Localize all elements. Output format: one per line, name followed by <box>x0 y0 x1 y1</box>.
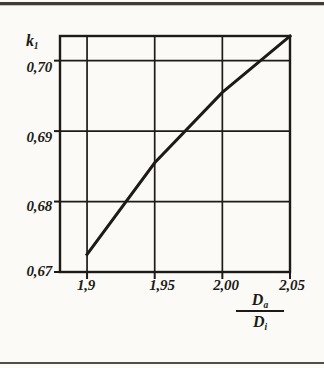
vertical-gridlines <box>87 36 222 272</box>
x-axis-title-numerator: Da <box>236 292 284 310</box>
x-tick-label: 1,9 <box>62 277 110 294</box>
x-axis-denominator-subscript: i <box>264 322 267 332</box>
horizontal-gridlines <box>60 61 290 202</box>
data-line-k1 <box>87 36 290 254</box>
y-tick-label: 0,70 <box>0 59 52 76</box>
y-axis-title: k1 <box>26 32 38 50</box>
y-tick-label: 0,69 <box>0 129 52 146</box>
chart-figure: k1 0,70 0,69 0,68 0,67 1,9 1,95 2,00 2,0… <box>0 0 324 368</box>
fraction-bar <box>236 310 284 312</box>
y-tick-label: 0,67 <box>0 263 52 280</box>
plot-frame <box>60 36 290 272</box>
x-axis-title-denominator: Di <box>236 313 284 331</box>
x-tick-label: 1,95 <box>134 277 190 294</box>
x-axis-title: Da Di <box>236 292 284 331</box>
x-axis-numerator-subscript: a <box>263 300 268 310</box>
figure-page: k1 0,70 0,69 0,68 0,67 1,9 1,95 2,00 2,0… <box>0 0 324 368</box>
y-tick-label: 0,68 <box>0 198 52 215</box>
y-axis-title-subscript: 1 <box>34 41 39 51</box>
